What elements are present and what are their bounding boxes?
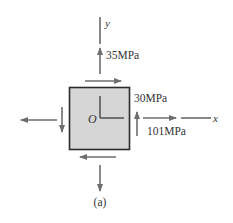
sigma-y-label: 35MPa <box>106 49 139 61</box>
stress-element-diagram: y 35MPa O 30MPa x 101MPa (a) <box>0 0 233 223</box>
tau-xy-label: 30MPa <box>134 92 167 104</box>
x-axis-label: x <box>212 112 218 124</box>
y-axis-label: y <box>104 17 110 29</box>
sigma-x-label: 101MPa <box>147 125 186 137</box>
figure-caption: (a) <box>94 196 107 209</box>
origin-label: O <box>88 112 97 126</box>
